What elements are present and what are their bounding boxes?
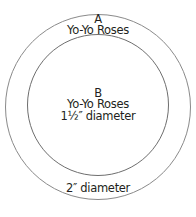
outer-circle-diameter: 2″ diameter: [0, 182, 196, 194]
outer-circle-name: Yo-Yo Roses: [0, 24, 196, 36]
inner-circle-diameter: 1½″ diameter: [0, 110, 196, 122]
